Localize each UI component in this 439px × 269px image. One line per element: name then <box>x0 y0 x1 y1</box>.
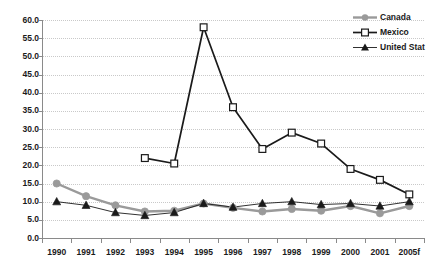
data-point-canada <box>288 205 295 212</box>
y-tick-mark <box>39 129 43 130</box>
data-point-mexico <box>259 146 266 153</box>
data-point-mexico <box>377 176 384 183</box>
y-tick-mark <box>39 38 43 39</box>
data-point-mexico <box>171 160 178 167</box>
y-tick-mark <box>39 75 43 76</box>
legend-label: Canada <box>380 12 411 23</box>
y-tick-mark <box>39 56 43 57</box>
legend-label: Mexico <box>380 27 409 38</box>
data-point-mexico <box>288 129 295 136</box>
y-tick-mark <box>39 220 43 221</box>
y-tick-mark <box>39 20 43 21</box>
y-tick-mark <box>39 184 43 185</box>
legend-item-united-stat[interactable]: United Stat <box>352 40 439 55</box>
y-tick-mark <box>39 111 43 112</box>
data-point-mexico <box>141 155 148 162</box>
triangle-marker-icon <box>352 40 378 55</box>
data-point-united-stat <box>347 199 355 206</box>
data-point-canada <box>318 207 325 214</box>
data-point-canada <box>53 180 60 187</box>
legend-item-canada[interactable]: Canada <box>352 10 439 25</box>
data-point-canada <box>259 208 266 215</box>
y-tick-mark <box>39 147 43 148</box>
data-point-united-stat <box>53 197 61 204</box>
data-point-united-stat <box>405 197 413 204</box>
y-tick-mark <box>39 202 43 203</box>
legend-label: United Stat <box>380 42 425 53</box>
y-tick-mark <box>39 165 43 166</box>
data-point-mexico <box>347 166 354 173</box>
legend-item-mexico[interactable]: Mexico <box>352 25 439 40</box>
y-tick-mark <box>39 238 43 239</box>
open-square-marker-icon <box>352 25 378 40</box>
data-point-mexico <box>200 24 207 31</box>
circle-marker-icon <box>352 10 378 25</box>
y-tick-mark <box>39 93 43 94</box>
data-point-mexico <box>406 191 413 198</box>
legend: CanadaMexicoUnited Stat <box>352 10 439 55</box>
data-point-canada <box>82 193 89 200</box>
line-chart: 0.05.010.015.020.025.030.035.040.045.050… <box>0 0 439 269</box>
data-point-mexico <box>318 140 325 147</box>
data-point-canada <box>376 210 383 217</box>
data-point-mexico <box>230 104 237 111</box>
data-point-united-stat <box>288 197 296 204</box>
